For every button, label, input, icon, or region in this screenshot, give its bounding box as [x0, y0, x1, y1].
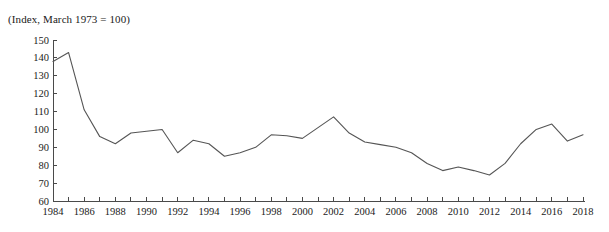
y-axis-tick-label: 120 — [33, 88, 49, 99]
x-axis-tick-label: 1998 — [261, 206, 282, 217]
y-axis-tick-label: 100 — [33, 124, 49, 135]
x-axis-tick-label: 2014 — [510, 206, 532, 217]
x-axis-tick-label: 2000 — [292, 206, 313, 217]
y-axis-tick-label: 70 — [39, 178, 50, 189]
x-axis-tick-label: 2002 — [323, 206, 344, 217]
x-axis-tick-label: 1992 — [167, 206, 188, 217]
y-axis-tick-label: 110 — [34, 106, 49, 117]
x-axis-tick-label: 2006 — [385, 206, 406, 217]
x-axis-tick-label: 2010 — [448, 206, 469, 217]
y-axis-tick-label: 140 — [33, 52, 49, 63]
y-axis-tick-label: 150 — [33, 35, 49, 46]
x-axis-tick-label: 2004 — [354, 206, 376, 217]
x-axis-tick-label: 1990 — [136, 206, 157, 217]
x-axis-tick-label: 2008 — [417, 206, 438, 217]
x-axis-tick-label: 2018 — [573, 206, 594, 217]
x-axis-tick-label: 2012 — [479, 206, 500, 217]
chart-container: (Index, March 1973 = 100) 60708090100110… — [0, 0, 609, 232]
x-axis-tick-label: 1988 — [105, 206, 126, 217]
x-axis-tick-label: 1996 — [230, 206, 251, 217]
y-axis-tick-label: 60 — [39, 196, 50, 207]
x-axis-tick-label: 1994 — [198, 206, 220, 217]
y-axis-tick-label: 90 — [39, 142, 50, 153]
x-axis: 1984198619881990199219941996199820002002… — [43, 197, 594, 217]
x-axis-tick-label: 2016 — [541, 206, 562, 217]
y-axis-tick-label: 130 — [33, 70, 49, 81]
exchange-rate-index-line — [53, 53, 583, 176]
x-axis-tick-label: 1986 — [74, 206, 95, 217]
line-chart-plot: 60708090100110120130140150 1984198619881… — [0, 0, 609, 232]
y-axis: 60708090100110120130140150 — [33, 35, 57, 207]
data-series-group — [53, 53, 583, 176]
x-axis-tick-label: 1984 — [43, 206, 65, 217]
y-axis-tick-label: 80 — [39, 160, 50, 171]
